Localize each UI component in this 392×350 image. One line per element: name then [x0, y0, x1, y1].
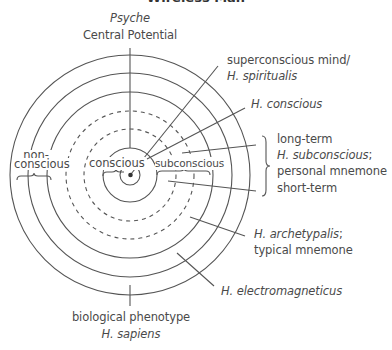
label-h-archetypalis: H. archetypalis: [254, 227, 339, 241]
label-h-conscious: H. conscious: [251, 96, 322, 112]
label-long-term: long-term: [277, 131, 332, 147]
label-h-sapiens: H. sapiens: [81, 326, 181, 342]
pointer-long-term: [182, 145, 256, 153]
label-conscious: conscious: [89, 157, 145, 170]
label-h-subconscious-line: H. subconscious;: [277, 147, 372, 163]
pointer-electromagneticus: [177, 253, 214, 286]
label-h-subconscious: H. subconscious: [277, 148, 369, 162]
label-h-electromagneticus: H. electromagneticus: [221, 283, 342, 299]
label-psyche: Psyche: [80, 10, 180, 26]
label-central-potential: Central Potential: [60, 27, 200, 43]
label-h-spiritualis: H. spiritualis: [227, 68, 297, 84]
label-subconscious: subconscious: [155, 157, 224, 170]
label-biological-phenotype: biological phenotype: [51, 309, 211, 325]
label-nonconscious: conscious: [14, 158, 70, 170]
label-semicolon: ;: [369, 148, 373, 162]
center-dot: [128, 173, 133, 178]
label-short-term: short-term: [277, 180, 337, 196]
brace-subconscious-range: [262, 136, 270, 196]
label-personal-mnemone: personal mnemone: [277, 163, 387, 179]
brace-nonconscious: [17, 173, 51, 180]
label-superconscious-mind: superconscious mind/: [227, 52, 350, 68]
pointer-archetypalis: [190, 217, 245, 236]
label-semicolon: ;: [339, 227, 343, 241]
label-typical-mnemone: typical mnemone: [254, 242, 353, 258]
label-h-archetypalis-line: H. archetypalis;: [254, 226, 343, 242]
